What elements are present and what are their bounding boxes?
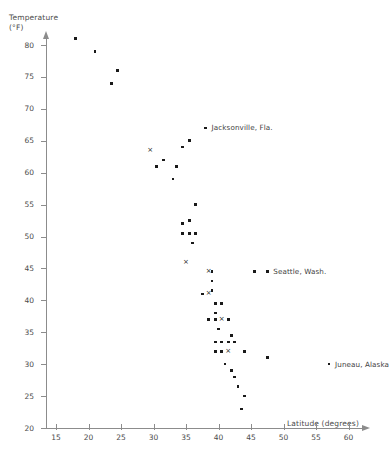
data-point-dot [188, 232, 191, 235]
data-point-dot [201, 293, 204, 296]
data-point-dot [214, 341, 217, 344]
data-point-dot [253, 270, 256, 273]
data-point-dot [204, 127, 207, 130]
y-tick-label: 60 [14, 168, 34, 177]
x-tick-label: 60 [338, 433, 360, 442]
y-tick-label: 25 [14, 392, 34, 401]
y-tick-label: 75 [14, 72, 34, 81]
data-point-dot [224, 363, 227, 366]
data-point-dot [227, 318, 230, 321]
y-tick-label: 65 [14, 136, 34, 145]
data-point-dot [194, 203, 197, 206]
data-point-dot [172, 178, 175, 181]
data-point-cross: × [225, 348, 232, 355]
y-tick-label: 55 [14, 200, 34, 209]
y-axis-arrow-icon [43, 31, 49, 39]
data-point-dot [217, 328, 220, 331]
y-tick [41, 332, 47, 333]
x-tick [219, 424, 220, 430]
x-tick [121, 424, 122, 430]
x-tick [251, 424, 252, 430]
x-tick [56, 424, 57, 430]
x-tick-label: 15 [45, 433, 67, 442]
y-axis-line [46, 39, 47, 429]
data-point-dot [233, 376, 236, 379]
data-point-dot [220, 302, 223, 305]
data-point-dot [188, 219, 191, 222]
data-point-dot [188, 139, 191, 142]
data-point-cross: × [218, 316, 225, 323]
y-tick-label: 80 [14, 41, 34, 50]
data-point-dot [162, 159, 165, 162]
y-tick [41, 300, 47, 301]
point-annotation-label: Jacksonville, Fla. [212, 123, 273, 132]
data-point-dot [116, 69, 119, 72]
y-tick-label: 50 [14, 232, 34, 241]
data-point-cross: × [183, 259, 190, 266]
y-tick [41, 364, 47, 365]
point-annotation-label: Juneau, Alaska [335, 360, 389, 369]
x-tick-label: 45 [240, 433, 262, 442]
x-tick [316, 424, 317, 430]
x-axis-arrow-icon [362, 425, 370, 431]
data-point-dot [243, 350, 246, 353]
data-point-dot [220, 350, 223, 353]
data-point-dot [191, 242, 194, 245]
x-tick-label: 50 [273, 433, 295, 442]
y-tick [41, 45, 47, 46]
data-point-dot [214, 312, 217, 315]
data-point-dot [266, 270, 269, 273]
data-point-dot [233, 341, 236, 344]
data-point-dot [211, 280, 214, 283]
data-point-dot [266, 356, 269, 359]
x-tick [284, 424, 285, 430]
data-point-cross: × [205, 290, 212, 297]
data-point-dot [214, 318, 217, 321]
y-tick-label: 45 [14, 264, 34, 273]
y-tick-label: 40 [14, 296, 34, 305]
x-tick-label: 30 [143, 433, 165, 442]
y-tick [41, 428, 47, 429]
data-point-dot [207, 318, 210, 321]
data-point-cross: × [205, 268, 212, 275]
x-tick-label: 55 [305, 433, 327, 442]
data-point-dot [181, 222, 184, 225]
y-tick [41, 141, 47, 142]
data-point-dot [155, 165, 158, 168]
data-point-dot [194, 232, 197, 235]
y-tick [41, 205, 47, 206]
x-tick-label: 20 [78, 433, 100, 442]
x-tick-label: 25 [110, 433, 132, 442]
data-point-dot [243, 395, 246, 398]
y-tick [41, 396, 47, 397]
data-point-dot [240, 408, 243, 411]
y-tick-label: 70 [14, 104, 34, 113]
y-tick [41, 268, 47, 269]
x-tick-label: 40 [208, 433, 230, 442]
x-tick [349, 424, 350, 430]
data-point-dot [110, 82, 113, 85]
x-tick [89, 424, 90, 430]
data-point-dot [214, 350, 217, 353]
data-point-dot [230, 334, 233, 337]
data-point-dot [181, 232, 184, 235]
data-point-dot [227, 341, 230, 344]
y-tick [41, 237, 47, 238]
y-axis-title: Temperature (°F) [9, 13, 58, 33]
data-point-dot [237, 385, 240, 388]
x-tick [186, 424, 187, 430]
data-point-dot [74, 37, 77, 40]
x-tick-label: 35 [175, 433, 197, 442]
data-point-dot [328, 363, 331, 366]
data-point-dot [94, 50, 97, 53]
data-point-dot [175, 165, 178, 168]
data-point-dot [181, 146, 184, 149]
y-tick-label: 20 [14, 424, 34, 433]
y-tick [41, 109, 47, 110]
data-point-dot [230, 369, 233, 372]
data-point-dot [214, 302, 217, 305]
y-tick [41, 77, 47, 78]
y-tick-label: 30 [14, 360, 34, 369]
data-point-dot [220, 341, 223, 344]
